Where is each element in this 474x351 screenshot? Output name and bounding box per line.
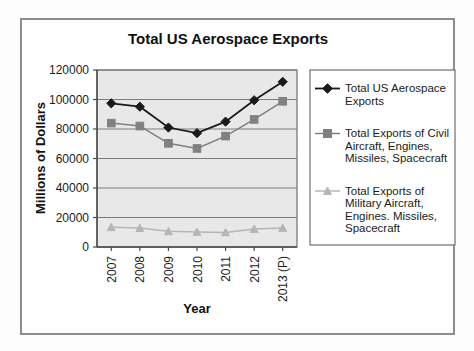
legend-label-line: Spacecraft [345,222,401,234]
legend-label-line: Missiles, Spacecraft [345,152,448,164]
x-tick-label: 2011 [219,256,233,282]
y-axis-title: Millions of Dollars [33,102,48,214]
legend-label-line: Total Exports of [345,185,425,197]
x-tick-label: 2010 [191,256,205,283]
x-axis-tick-labels: 2007200820092010201120122013 (P) [105,256,290,302]
marker-square [222,132,230,140]
marker-square [324,130,332,138]
marker-square [165,140,173,148]
legend-label-line: Military Aircraft, [345,197,424,209]
y-axis-tick-labels: 020000400006000080000100000120000 [49,63,89,254]
y-tick-label: 80000 [56,122,90,136]
legend-label-line: Exports [345,95,384,107]
y-tick-label: 20000 [56,211,90,225]
legend-label-line: Engines. Missiles, [345,210,437,222]
y-tick-label: 100000 [49,93,89,107]
legend-label-line: Aircraft, Engines, [345,140,433,152]
chart-figure: Total US Aerospace Exports Millions of D… [0,0,474,351]
x-tick-label: 2009 [162,256,176,283]
legend-label-line: Total US Aerospace [345,82,446,94]
x-tick-label: 2007 [105,256,119,283]
line-chart: Total US Aerospace Exports Millions of D… [0,0,474,351]
x-tick-label: 2008 [133,256,147,283]
x-tick-label: 2012 [248,256,262,283]
marker-square [107,119,115,127]
y-tick-label: 60000 [56,152,90,166]
marker-square [279,97,287,105]
marker-square [193,145,201,153]
marker-square [136,122,144,130]
x-tick-label: 2013 (P) [276,256,290,302]
chart-legend: Total US AerospaceExportsTotal Exports o… [310,70,455,245]
x-axis-title: Year [183,301,210,316]
legend-label-line: Total Exports of Civil [345,127,449,139]
y-tick-label: 120000 [49,63,89,77]
y-tick-label: 0 [82,240,89,254]
y-tick-label: 40000 [56,181,90,195]
plot-area [93,70,297,251]
marker-square [250,116,258,124]
chart-title: Total US Aerospace Exports [128,30,328,47]
